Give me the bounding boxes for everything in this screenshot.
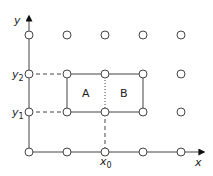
x0-label: x0	[99, 155, 112, 170]
node	[25, 70, 33, 78]
y2-label: y2	[11, 68, 24, 83]
node	[139, 70, 147, 78]
lattice-diagram: y x y2 y1 x0 A B	[0, 0, 213, 176]
x-axis-label: x	[194, 156, 202, 169]
region-a-label: A	[82, 87, 90, 100]
node	[63, 108, 71, 116]
y-axis-label: y	[13, 14, 21, 27]
node	[63, 31, 71, 39]
node	[177, 70, 185, 78]
node	[25, 148, 33, 156]
y1-label: y1	[11, 106, 24, 121]
node	[139, 148, 147, 156]
grid-nodes	[25, 31, 185, 156]
region-b-label: B	[120, 87, 128, 100]
node	[25, 108, 33, 116]
node	[177, 148, 185, 156]
node	[25, 31, 33, 39]
node	[63, 70, 71, 78]
node	[101, 108, 109, 116]
x0-sub: 0	[107, 161, 112, 170]
node	[101, 70, 109, 78]
y1-sub: 1	[19, 112, 24, 121]
node	[63, 148, 71, 156]
y2-sub: 2	[19, 74, 24, 83]
node	[101, 31, 109, 39]
node	[177, 31, 185, 39]
rectangles	[67, 74, 143, 112]
node	[139, 108, 147, 116]
node	[177, 108, 185, 116]
node	[139, 31, 147, 39]
